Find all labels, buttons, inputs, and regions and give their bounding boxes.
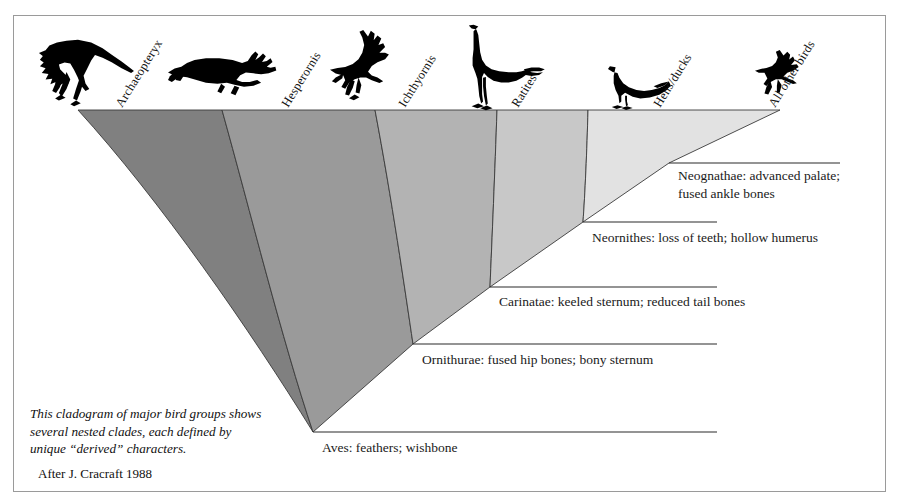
taxon-label-hesperornis: Hesperornis xyxy=(279,49,324,110)
clade-label-aves: Aves: feathers; wishbone xyxy=(322,440,457,455)
clade-label-carinatae: Carinatae: keeled sternum; reduced tail … xyxy=(499,294,745,309)
clade-label-neognathae-line2: fused ankle bones xyxy=(678,186,775,201)
clade-label-ornithurae: Ornithurae: fused hip bones; bony sternu… xyxy=(422,352,654,367)
figure-caption-body: This cladogram of major bird groups show… xyxy=(30,405,270,458)
hesperornis-silhouette xyxy=(168,52,276,96)
clade-wedge-group xyxy=(78,110,780,432)
clade-label-neognathae-line1: Neognathae: advanced palate; xyxy=(678,168,840,183)
clade-label-neornithes: Neornithes: loss of teeth; hollow humeru… xyxy=(592,230,818,245)
figure-caption-source: After J. Cracraft 1988 xyxy=(38,466,152,482)
ichthyornis-silhouette xyxy=(330,30,389,100)
taxon-label-archaeopteryx: Archaeopteryx xyxy=(113,37,166,110)
taxon-label-ichthyornis: Ichthyornis xyxy=(396,52,439,110)
wedge-band-neornithes xyxy=(490,110,588,287)
ratite-ostrich-silhouette xyxy=(469,25,545,111)
taxon-label-hens-ducks: Hens/ducks xyxy=(651,51,695,110)
wedge-band-neognathae xyxy=(583,110,780,222)
cladogram-figure: Aves: feathers; wishbone Ornithurae: fus… xyxy=(0,0,900,503)
